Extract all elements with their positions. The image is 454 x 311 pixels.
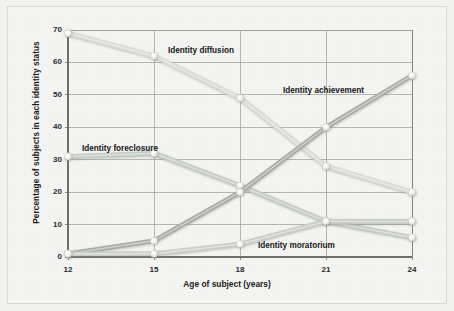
series-label-4: Identity moratorium <box>258 241 335 250</box>
data-point <box>237 189 244 196</box>
series-label-3: Identity achievement <box>283 86 364 95</box>
data-point <box>65 250 72 257</box>
data-point <box>409 234 416 241</box>
data-point <box>65 153 72 160</box>
data-point <box>151 237 158 244</box>
data-point <box>323 124 330 131</box>
series-label-2: Identity foreclosure <box>82 144 158 153</box>
chart-figure: Percentage of subjects in each identity … <box>0 0 454 311</box>
data-point <box>151 250 158 257</box>
data-point <box>409 72 416 79</box>
data-point <box>323 218 330 225</box>
data-point <box>409 189 416 196</box>
series-label-1: Identity diffusion <box>168 46 234 55</box>
data-point <box>409 218 416 225</box>
data-point <box>151 52 158 59</box>
data-point <box>237 241 244 248</box>
data-point <box>65 30 72 37</box>
data-point <box>323 163 330 170</box>
data-point <box>237 95 244 102</box>
